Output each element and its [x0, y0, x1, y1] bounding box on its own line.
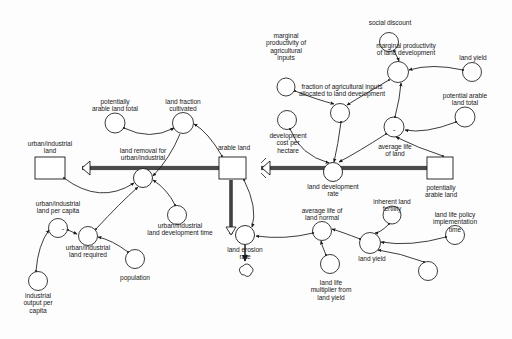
aux-marginal-productivity-land-development	[388, 62, 409, 83]
stock-arable-land	[219, 157, 246, 179]
label-land-yield-lower: inherent land fertility	[363, 198, 421, 213]
label-industrial-output-per-capita: industrial output per capita	[6, 292, 70, 314]
stock-potentially-arable-land	[427, 157, 453, 179]
aux-potentially-arable-land-total	[105, 113, 125, 133]
label-marginal-productivity-agricultural-inputs: marginal productivity of agricultural in…	[249, 32, 323, 62]
aux-land-fraction-cultivated	[173, 113, 194, 134]
label-urban-industrial-land: urban/industrial land	[10, 140, 90, 155]
stock-urban-industrial-land	[35, 157, 65, 179]
polarity-minus-urban-land-per-capita: -	[58, 225, 68, 232]
label-average-life-of-land-normal: land life multiplier from land yield	[294, 279, 368, 301]
flow-arrow-into-arable-land	[262, 161, 270, 175]
aux-potential-arable-land-total	[455, 107, 475, 127]
label-population: population	[103, 274, 167, 281]
label-land-life-multiplier-from-land-yield: land yield	[333, 255, 411, 262]
label-development-cost-per-hectare: average life of land	[364, 143, 426, 158]
flow-arrow-into-urban-land	[82, 161, 90, 175]
label-land-yield-top: land yield	[444, 54, 502, 61]
label-urban-industrial-land-required: urban/industrial land required	[44, 244, 132, 259]
aux-fraction-agricultural-inputs-allocated	[331, 104, 350, 123]
label-potentially-arable-land-total: potentially arable land total	[73, 98, 157, 113]
label-social-discount: social discount	[352, 19, 428, 26]
aux-total-agricultural-investment	[278, 111, 297, 130]
aux-land-life-policy-implementation-time	[419, 262, 438, 281]
valve-land-removal-urban-industrial	[134, 169, 153, 188]
aux-land-life-multiplier-from-land-yield	[360, 233, 381, 254]
label-fraction-agricultural-inputs-allocated: fraction of agricultural inputs allocate…	[278, 83, 406, 98]
aux-urban-industrial-land-required	[79, 227, 98, 246]
label-land-erosion-rate: land erosion rate	[213, 246, 277, 261]
stock-flow-diagram-canvas: potentially arable land total land fract…	[0, 0, 512, 339]
label-potentially-arable-land: potentially arable land	[406, 184, 476, 199]
aux-average-life-of-land	[313, 222, 332, 241]
label-land-development-rate: land development rate	[293, 183, 373, 198]
label-inherent-land-fertility: land life policy implementation time	[419, 211, 491, 233]
label-potential-arable-land-total: potential arable land total	[425, 92, 505, 107]
label-urban-industrial-land-development-time: urban/industrial land development time	[134, 222, 226, 237]
aux-land-yield-top	[463, 63, 482, 82]
cloud-sink-icon	[239, 264, 253, 276]
label-urban-industrial-land-per-capita: urban/industrial land per capita	[14, 200, 102, 215]
label-land-fraction-cultivated: land fraction cultivated	[146, 98, 220, 113]
valve-land-development-rate	[324, 163, 343, 182]
label-arable-land: arable land	[203, 144, 265, 151]
erosion-arrowhead	[226, 227, 236, 235]
label-marginal-productivity-land-development: marginal productivity of land developmen…	[357, 42, 455, 57]
label-land-removal-for-urban-industrial: land removal for urban/industrial	[101, 147, 185, 162]
label-average-life-of-land: average life of land normal	[289, 207, 355, 222]
valve-land-erosion-rate	[236, 226, 255, 245]
polarity-minus-development-cost: -	[389, 126, 399, 133]
label-total-agricultural-investment: development cost per hectare	[257, 132, 319, 154]
aux-industrial-output-per-capita	[29, 272, 48, 291]
